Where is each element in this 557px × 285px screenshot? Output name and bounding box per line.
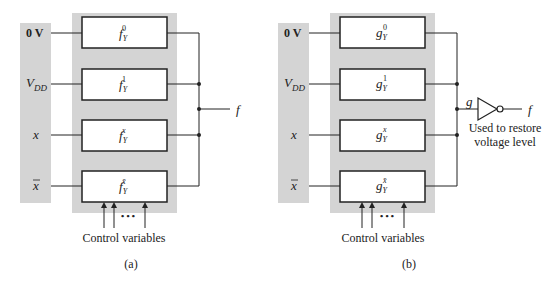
inverter-note-line1: Used to restore (469, 121, 542, 135)
inverter-note-line2: voltage level (474, 135, 536, 149)
ellipsis-a: • • • (121, 211, 135, 221)
diagram-b: 0 V VDD x x gY0 gY1 gYx gYx̄ g f Used to… (278, 13, 541, 271)
input-label-0v: 0 V (284, 26, 302, 40)
input-label-0v: 0 V (26, 26, 44, 40)
caption-b: (b) (402, 257, 416, 271)
input-strip-a (20, 23, 51, 203)
inverter-input-label-g: g (466, 94, 473, 109)
output-label-f: f (528, 102, 534, 117)
junction-dot (197, 133, 201, 137)
input-label-x: x (32, 127, 39, 142)
diagram-a: 0 V VDD x x fY0 fY1 fYx fYx̄ f (20, 13, 242, 271)
caption-a: (a) (124, 257, 137, 271)
junction-dot (455, 133, 459, 137)
output-label-f: f (236, 102, 242, 117)
inverter-bubble (497, 106, 503, 112)
junction-dot (455, 82, 459, 86)
function-label-g0: gY0 (376, 23, 389, 42)
inverter-icon (478, 98, 497, 120)
input-strip-b (278, 23, 309, 203)
pass-transistor-diagrams: 0 V VDD x x fY0 fY1 fYx fYx̄ f (0, 0, 557, 285)
control-variables-label-a: Control variables (83, 231, 166, 245)
ellipsis-b: • • • (380, 211, 394, 221)
control-variables-label-b: Control variables (342, 231, 425, 245)
function-label-g1: gY1 (376, 74, 389, 93)
input-label-x: x (290, 127, 297, 142)
junction-dot (197, 82, 201, 86)
